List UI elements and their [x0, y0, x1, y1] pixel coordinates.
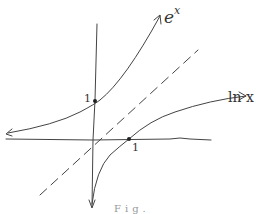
exp-label-base: e [164, 7, 174, 27]
y-axis [92, 24, 97, 207]
ln-label: ln x [228, 89, 254, 105]
function-graph [0, 0, 256, 214]
exp-curve [8, 16, 160, 133]
exp-point-label: 1 [84, 92, 91, 105]
exp-label: ex [164, 6, 180, 27]
ln-curve [92, 96, 246, 204]
ln-point-1-0 [127, 137, 131, 141]
ln-point-label: 1 [132, 141, 139, 154]
exp-label-sup: x [174, 4, 180, 17]
exp-point-0-1 [93, 99, 97, 103]
exp-arrow-icon [154, 15, 161, 24]
x-axis [6, 138, 211, 140]
symmetry-line-y-equals-x [40, 50, 198, 195]
bottom-caption: Fig. [114, 203, 150, 214]
